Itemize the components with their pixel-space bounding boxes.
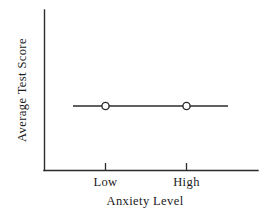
y-axis-title: Average Test Score (15, 38, 29, 142)
x-tick-label-high: High (173, 175, 200, 189)
figure-container: Low High Anxiety Level Average Test Scor… (0, 0, 261, 216)
data-point-marker-low (102, 102, 109, 109)
data-point-marker-high (183, 102, 190, 109)
x-tick-label-low: Low (93, 175, 117, 189)
line-chart: Low High Anxiety Level Average Test Scor… (0, 0, 261, 216)
x-axis-title: Anxiety Level (106, 194, 183, 208)
